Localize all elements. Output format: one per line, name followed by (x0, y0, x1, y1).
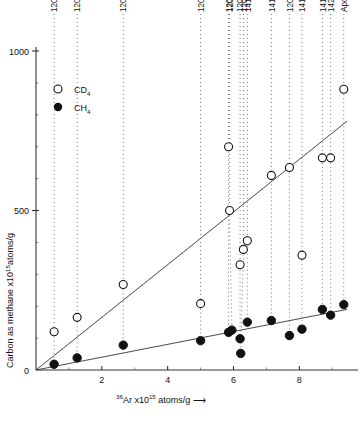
data-point-cd4 (243, 237, 251, 245)
x-tick-label: 6 (231, 375, 236, 385)
data-point-ch4 (236, 335, 244, 343)
data-point-cd4 (119, 281, 127, 289)
sample-label: 12028/29 (197, 0, 206, 12)
sample-label: 12042 (226, 0, 235, 12)
data-point-ch4 (50, 360, 58, 368)
data-point-ch4 (243, 318, 251, 326)
sample-label: 14148 (268, 0, 277, 12)
data-point-ch4 (196, 336, 204, 344)
y-tick-label: 0 (24, 366, 29, 376)
data-point-cd4 (298, 251, 306, 259)
sample-label: 12032 (73, 0, 82, 12)
legend-marker-ch4 (54, 103, 62, 111)
data-point-cd4 (197, 300, 205, 308)
data-point-cd4 (225, 143, 233, 151)
data-point-cd4 (285, 163, 293, 171)
data-point-cd4 (267, 171, 275, 179)
data-point-cd4 (239, 245, 247, 253)
y-tick-label: 1000 (9, 47, 29, 57)
figure-root: 050010002468120331203212028/2412028/2912… (0, 0, 362, 421)
data-point-ch4 (267, 316, 275, 324)
x-tick-label: 4 (165, 375, 170, 385)
data-point-cd4 (318, 154, 326, 162)
data-point-ch4 (285, 331, 293, 339)
sample-label: 14298 (327, 0, 336, 12)
data-point-cd4 (226, 207, 234, 215)
sample-label: Apollo 11 (340, 0, 349, 12)
sample-label: 12033 (50, 0, 59, 12)
data-point-ch4 (119, 341, 127, 349)
sample-label: 14149 (244, 0, 253, 12)
y-axis-label: Carbon as methane x1015atoms/g (4, 233, 15, 368)
data-point-ch4 (73, 354, 81, 362)
sample-label: 14163 (298, 0, 307, 12)
x-axis-label: 36Ar x1015 atoms/g ⟶ (116, 393, 206, 405)
scatter-plot: 050010002468120331203212028/2412028/2912… (0, 0, 362, 421)
legend-label-cd4: CD4 (74, 85, 91, 97)
data-point-ch4 (298, 325, 306, 333)
sample-label: 12028/24 (119, 0, 128, 12)
data-point-ch4 (340, 300, 348, 308)
y-tick-label: 500 (14, 206, 29, 216)
fit-line-CH4-fit (36, 309, 347, 370)
data-point-cd4 (50, 328, 58, 336)
x-tick-label: 8 (297, 375, 302, 385)
data-point-cd4 (73, 313, 81, 321)
data-point-ch4 (326, 311, 334, 319)
data-point-cd4 (327, 154, 335, 162)
data-point-ch4 (237, 349, 245, 357)
x-tick-label: 2 (99, 375, 104, 385)
data-point-ch4 (228, 326, 236, 334)
data-point-cd4 (236, 261, 244, 269)
data-point-cd4 (340, 85, 348, 93)
data-point-ch4 (318, 305, 326, 313)
legend-marker-cd4 (54, 85, 62, 93)
legend-label-ch4: CH4 (74, 103, 91, 115)
connector-line (230, 216, 232, 326)
sample-label: 12001 (286, 0, 295, 12)
